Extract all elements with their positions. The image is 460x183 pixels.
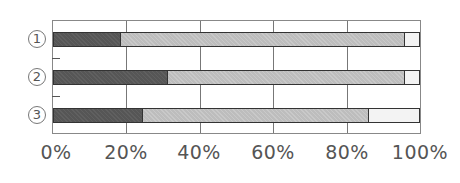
plot-area <box>52 20 421 134</box>
bar-segment-1 <box>54 33 120 46</box>
bar-segment-2 <box>120 33 405 46</box>
bar-segment-3 <box>368 109 419 122</box>
bar-row-1 <box>53 32 420 47</box>
x-tick-label-80: 80% <box>325 141 369 163</box>
x-tick-label-60: 60% <box>251 141 295 163</box>
x-tick-label-20: 20% <box>104 141 148 163</box>
row-label-1: 1 <box>28 30 46 48</box>
row-label-3: 3 <box>28 106 46 124</box>
x-tick-label-40: 40% <box>177 141 221 163</box>
x-tick-label-0: 0% <box>40 141 71 163</box>
bar-row-2 <box>53 70 420 85</box>
row-separator-tick <box>52 96 60 97</box>
bar-segment-3 <box>404 33 419 46</box>
row-separator-tick <box>52 58 60 59</box>
bar-segment-1 <box>54 71 167 84</box>
row-label-2: 2 <box>28 68 46 86</box>
bar-row-3 <box>53 108 420 123</box>
bar-segment-2 <box>142 109 368 122</box>
bar-segment-2 <box>167 71 404 84</box>
bar-segment-3 <box>404 71 419 84</box>
x-tick-label-100: 100% <box>392 141 448 163</box>
bar-segment-1 <box>54 109 142 122</box>
